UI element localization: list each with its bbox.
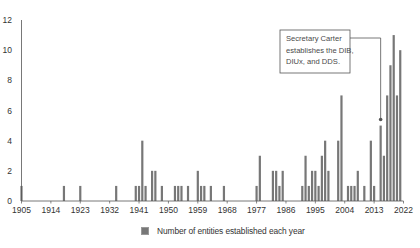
bar xyxy=(223,186,225,201)
x-tick-label: 2013 xyxy=(365,205,384,215)
bar xyxy=(347,186,349,201)
bar xyxy=(187,186,189,201)
bar xyxy=(353,186,355,201)
bar xyxy=(197,171,199,201)
x-tick-label: 1932 xyxy=(100,205,119,215)
legend-swatch xyxy=(141,227,149,235)
y-tick-label: 8 xyxy=(7,75,12,85)
y-tick-label: 4 xyxy=(7,136,12,146)
x-tick-label: 1995 xyxy=(306,205,325,215)
bar xyxy=(200,186,202,201)
bar xyxy=(314,171,316,201)
y-tick-label: 10 xyxy=(3,45,13,55)
annotation-text: Secretary Carter xyxy=(286,34,342,43)
bar xyxy=(141,141,143,201)
bar xyxy=(386,95,388,201)
x-tick-label: 1914 xyxy=(41,205,60,215)
bar xyxy=(180,186,182,201)
bar xyxy=(144,186,146,201)
bar xyxy=(327,171,329,201)
bar xyxy=(380,126,382,201)
annotation-marker-dot xyxy=(379,118,383,122)
annotation-text: DIUx, and DDS. xyxy=(286,57,340,66)
bar xyxy=(337,141,339,201)
bar xyxy=(308,186,310,201)
x-tick-label: 2004 xyxy=(335,205,354,215)
bar xyxy=(340,95,342,201)
legend: Number of entities established each year xyxy=(141,225,305,237)
bar xyxy=(301,186,303,201)
annotation-leader-line xyxy=(350,38,381,118)
bar xyxy=(373,186,375,201)
bar-chart: 1905191419231932194119501959196819771986… xyxy=(0,0,420,248)
x-tick-label: 1977 xyxy=(247,205,266,215)
bar xyxy=(383,156,385,201)
bar xyxy=(311,171,313,201)
bar xyxy=(324,141,326,201)
x-tick-label: 1950 xyxy=(159,205,178,215)
x-tick-label: 1905 xyxy=(12,205,31,215)
bar xyxy=(161,186,163,201)
bar xyxy=(321,156,323,201)
annotation: Secretary Carterestablishes the DIB,DIUx… xyxy=(280,30,382,121)
bar xyxy=(350,186,352,201)
legend-label: Number of entities established each year xyxy=(157,226,305,236)
x-tick-label: 1986 xyxy=(277,205,296,215)
y-tick-label: 2 xyxy=(7,166,12,176)
x-tick-label: 1959 xyxy=(188,205,207,215)
y-tick-label: 6 xyxy=(7,106,12,116)
bar xyxy=(210,186,212,201)
x-tick-label: 1941 xyxy=(130,205,149,215)
bar xyxy=(79,186,81,201)
bar xyxy=(174,186,176,201)
bar xyxy=(203,186,205,201)
bar xyxy=(177,186,179,201)
x-tick-label: 2022 xyxy=(394,205,413,215)
bar xyxy=(304,156,306,201)
bar xyxy=(399,50,401,201)
bar xyxy=(115,186,117,201)
bar xyxy=(278,186,280,201)
bar xyxy=(275,171,277,201)
bar xyxy=(138,186,140,201)
bar xyxy=(259,156,261,201)
bar xyxy=(363,186,365,201)
annotation-text: establishes the DIB, xyxy=(286,46,354,55)
bar xyxy=(154,171,156,201)
x-tick-label: 1968 xyxy=(218,205,237,215)
bar xyxy=(393,35,395,201)
bar xyxy=(272,171,274,201)
bar xyxy=(370,141,372,201)
bar xyxy=(396,95,398,201)
bar xyxy=(357,171,359,201)
bar xyxy=(318,186,320,201)
bar xyxy=(63,186,65,201)
bar xyxy=(135,186,137,201)
bar xyxy=(282,171,284,201)
y-tick-label: 12 xyxy=(3,15,13,25)
x-tick-label: 1923 xyxy=(71,205,90,215)
bar xyxy=(255,186,257,201)
bar xyxy=(389,65,391,201)
y-tick-label: 0 xyxy=(7,196,12,206)
bar xyxy=(151,171,153,201)
